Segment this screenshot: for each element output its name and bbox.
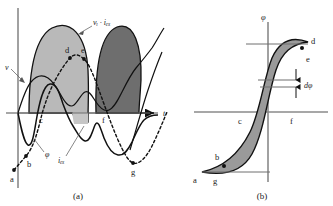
power-label-leader xyxy=(80,26,92,33)
point-f-label: f xyxy=(290,116,293,126)
power-label: vᵢ · iₑₓ xyxy=(93,18,110,27)
panel-a-chart: vᵢ · iₑₓ v φ iₑₓ t a b c d e f g (a) xyxy=(0,0,180,206)
point-b-label: b xyxy=(215,152,219,162)
power-label-arrow-icon xyxy=(78,31,84,35)
point-e-marker xyxy=(82,57,86,61)
point-a-label: a xyxy=(193,175,197,185)
power-lobe-light-tail xyxy=(72,113,88,124)
point-c-label: c xyxy=(39,115,43,125)
point-e-label: e xyxy=(306,54,310,64)
point-b-marker xyxy=(24,154,28,158)
point-g-marker xyxy=(131,161,135,165)
panel-a-caption: (a) xyxy=(73,191,83,201)
point-e-marker xyxy=(300,46,304,50)
point-a-marker xyxy=(12,168,16,172)
current-label: iₑₓ xyxy=(58,156,65,165)
point-a-label: a xyxy=(10,174,14,184)
time-axis-label: t xyxy=(163,109,166,118)
point-g-label: g xyxy=(131,167,136,177)
flux-axis-label: φ xyxy=(261,12,266,22)
point-c-label: c xyxy=(238,116,242,126)
voltage-label: v xyxy=(5,63,9,72)
panel-b-chart: φ d e c f b a g dφ (b) xyxy=(180,0,333,206)
point-f-label: f xyxy=(102,115,105,125)
point-b-label: b xyxy=(27,159,31,169)
flux-label-leader xyxy=(34,139,44,152)
flux-label: φ xyxy=(45,150,50,159)
point-g-label: g xyxy=(213,176,218,186)
dphi-label: dφ xyxy=(304,81,313,90)
point-d-label: d xyxy=(311,36,316,46)
point-b-marker xyxy=(222,164,226,168)
figure-root: vᵢ · iₑₓ v φ iₑₓ t a b c d e f g (a) xyxy=(0,0,333,206)
point-d-marker xyxy=(68,56,72,60)
panel-b-caption: (b) xyxy=(257,191,268,201)
point-e-label: e xyxy=(81,45,85,55)
